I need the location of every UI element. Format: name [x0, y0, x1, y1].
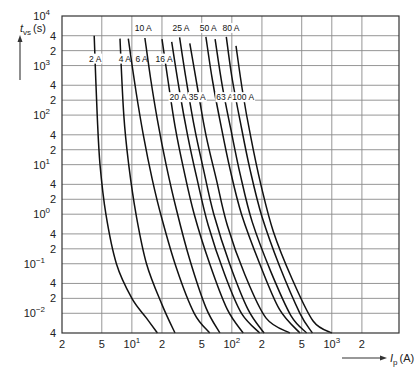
x-tick-label: 2	[59, 338, 65, 350]
y-tick-label: 2	[50, 292, 56, 304]
time-current-characteristic-chart: 2 A4 A6 A10 A16 A20 A25 A35 A50 A63 A80 …	[0, 0, 418, 378]
y-tick-label: 4	[50, 129, 56, 141]
curve-label: 63 A	[216, 92, 233, 102]
x-axis-ticks: 2510125102251032	[59, 336, 365, 350]
y-axis-ticks: 104421034210242101421004210−14210−24	[24, 8, 56, 339]
y-axis-arrowhead-icon	[18, 35, 23, 42]
curve-label: 80 A	[222, 23, 239, 33]
x-tick-label: 2	[259, 338, 265, 350]
y-tick-label: 2	[50, 45, 56, 57]
x-axis-title: Ip(A)	[342, 352, 414, 367]
y-tick-label: 103	[33, 58, 50, 72]
curve-label: 10 A	[135, 23, 152, 33]
x-axis-arrowhead-icon	[380, 356, 387, 361]
fuse-curves: 2 A4 A6 A10 A16 A20 A25 A35 A50 A63 A80 …	[88, 23, 332, 333]
y-tick-label: 104	[33, 8, 50, 22]
y-tick-label: 4	[50, 30, 56, 42]
curve-label: 2 A	[89, 54, 102, 64]
curve-label: 4 A	[119, 54, 132, 64]
curve-100a	[236, 46, 332, 333]
x-tick-label: 2	[359, 338, 365, 350]
x-tick-label: 2	[159, 338, 165, 350]
svg-text:tvs(s): tvs(s)	[20, 22, 46, 37]
y-tick-label: 4	[50, 228, 56, 240]
curve-label: 100 A	[232, 92, 254, 102]
y-tick-label: 2	[50, 94, 56, 106]
x-tick-label: 5	[99, 338, 105, 350]
curve-label: 16 A	[156, 54, 173, 64]
y-tick-label: 100	[33, 206, 50, 220]
x-tick-label: 5	[299, 338, 305, 350]
curve-label: 20 A	[170, 92, 187, 102]
curve-label: 50 A	[200, 23, 217, 33]
curve-4a	[120, 39, 175, 333]
y-tick-label: 10−2	[24, 305, 46, 319]
y-tick-label: 102	[33, 107, 50, 121]
curve-label: 6 A	[135, 54, 148, 64]
y-tick-label: 4	[50, 277, 56, 289]
svg-text:Ip(A): Ip(A)	[390, 352, 414, 367]
y-tick-label: 4	[50, 327, 56, 339]
curve-label: 25 A	[172, 23, 189, 33]
x-tick-label: 102	[223, 336, 240, 350]
y-tick-label: 10−1	[24, 256, 46, 270]
x-tick-label: 103	[323, 336, 340, 350]
y-tick-label: 4	[50, 178, 56, 190]
x-tick-label: 5	[199, 338, 205, 350]
y-tick-label: 2	[50, 193, 56, 205]
y-tick-label: 2	[50, 144, 56, 156]
y-tick-label: 4	[50, 79, 56, 91]
y-tick-label: 101	[33, 157, 50, 171]
y-tick-label: 2	[50, 243, 56, 255]
x-tick-label: 101	[124, 336, 141, 350]
curve-label: 35 A	[189, 92, 206, 102]
